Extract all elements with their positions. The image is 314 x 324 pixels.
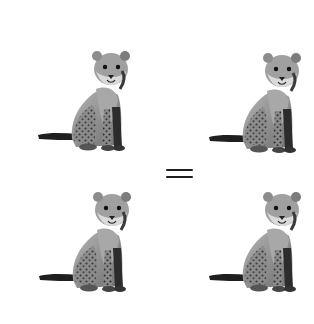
cheetah-cub-image-bottom-right [207, 190, 307, 294]
cheetah-cub-image-top-right [207, 51, 307, 155]
cheetah-cub-image-bottom-left [37, 190, 137, 294]
equals-bar-bottom [166, 176, 193, 178]
equals-bar-top [166, 169, 193, 171]
cheetah-cub-image-top-left [36, 49, 136, 153]
equals-sign-icon [166, 168, 193, 179]
